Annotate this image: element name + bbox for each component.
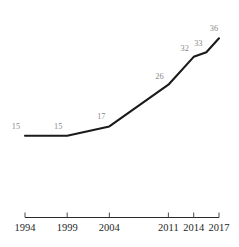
data-point-label: 36 <box>210 24 218 33</box>
data-point-label: 15 <box>54 122 62 131</box>
x-axis-tick-label: 1999 <box>57 222 78 233</box>
data-point-label: 17 <box>97 112 105 121</box>
data-point-label: 32 <box>181 44 189 53</box>
line-chart: 15151726323336 199419992004201120142017 <box>0 0 239 247</box>
data-point-label: 15 <box>12 122 20 131</box>
chart-background <box>0 0 239 247</box>
data-point-label: 33 <box>194 39 202 48</box>
x-axis-tick-label: 2017 <box>209 222 230 233</box>
x-axis-tick-label: 1994 <box>15 222 37 233</box>
x-axis-tick-label: 2011 <box>158 222 179 233</box>
chart-canvas: 15151726323336 199419992004201120142017 <box>0 0 239 247</box>
x-axis-tick-label: 2014 <box>183 222 205 233</box>
data-point-label: 26 <box>155 72 163 81</box>
x-axis-tick-label: 2004 <box>99 222 121 233</box>
